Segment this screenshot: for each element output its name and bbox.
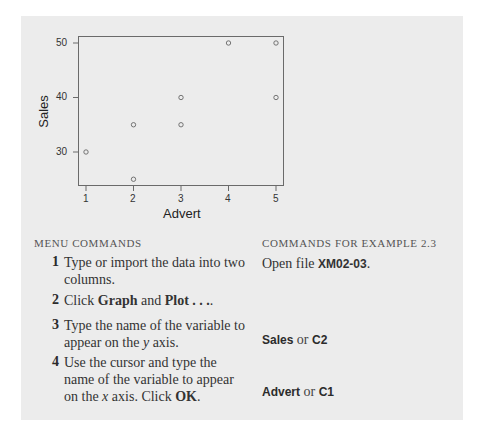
y-tick-label: 30 — [56, 146, 67, 157]
x-tick-label: 4 — [225, 193, 231, 204]
menu-commands-heading: MENU COMMANDS — [34, 237, 142, 249]
step-number: 3 — [52, 317, 59, 333]
step-text: Type or import the data into two — [64, 254, 245, 271]
data-point — [274, 95, 278, 99]
step-text: name of the variable to appear — [64, 371, 234, 388]
x-tick-label: 5 — [273, 193, 279, 204]
plot-menu-label: Plot . . . — [165, 293, 210, 308]
data-point — [179, 95, 183, 99]
step-text: columns. — [64, 271, 115, 288]
step-number: 2 — [52, 292, 59, 308]
x-variable-command: Advert or C1 — [262, 384, 334, 400]
ok-button-label: OK — [175, 389, 197, 404]
step-number: 1 — [52, 254, 59, 270]
data-point — [131, 123, 135, 127]
y-axis-title: Sales — [36, 95, 51, 128]
graph-menu-label: Graph — [98, 293, 138, 308]
step-text: appear on the y axis. — [64, 334, 179, 351]
x-tick-label: 3 — [178, 193, 184, 204]
step-number: 4 — [52, 354, 59, 370]
step-text: Click Graph and Plot . . .. — [64, 292, 213, 309]
x-tick-label: 2 — [130, 193, 136, 204]
example-commands-heading: COMMANDS FOR EXAMPLE 2.3 — [262, 237, 437, 249]
y-variable-command: Sales or C2 — [262, 332, 327, 348]
step-text: on the x axis. Click OK. — [64, 388, 201, 405]
data-point — [131, 177, 135, 181]
step-text: Type the name of the variable to — [64, 317, 245, 334]
y-tick-label: 40 — [56, 91, 67, 102]
data-point — [179, 123, 183, 127]
x-tick-label: 1 — [83, 193, 89, 204]
data-point — [84, 150, 88, 154]
file-name: XM02-03 — [318, 257, 367, 271]
data-point — [274, 41, 278, 45]
y-tick-label: 50 — [56, 37, 67, 48]
step-text: Use the cursor and type the — [64, 354, 217, 371]
open-file-instruction: Open file XM02-03. — [262, 255, 370, 273]
x-axis-title: Advert — [163, 206, 201, 221]
data-point — [226, 41, 230, 45]
